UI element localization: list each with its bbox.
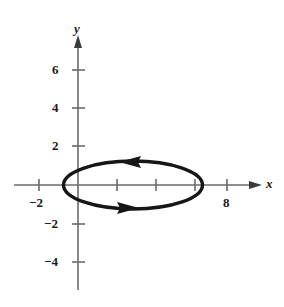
y-tick-label-6: 6: [52, 63, 59, 76]
coordinate-plot: [0, 0, 284, 307]
y-tick-label-minus-2: −2: [44, 217, 58, 230]
y-tick-label-4: 4: [52, 101, 59, 114]
x-tick-label-minus-2: −2: [29, 196, 43, 209]
graph-figure: 6 4 2 −2 −4 −2 8 y x: [0, 0, 284, 307]
y-axis-arrowhead: [74, 35, 82, 48]
y-tick-label-minus-4: −4: [44, 255, 58, 268]
x-tick-label-8: 8: [223, 196, 230, 209]
direction-arrow-top-icon: [119, 156, 141, 168]
y-axis-label: y: [74, 22, 80, 35]
x-axis-label: x: [266, 177, 273, 190]
y-tick-label-2: 2: [52, 139, 59, 152]
x-axis-arrowhead: [249, 181, 262, 189]
direction-arrow-bottom-icon: [117, 202, 139, 214]
